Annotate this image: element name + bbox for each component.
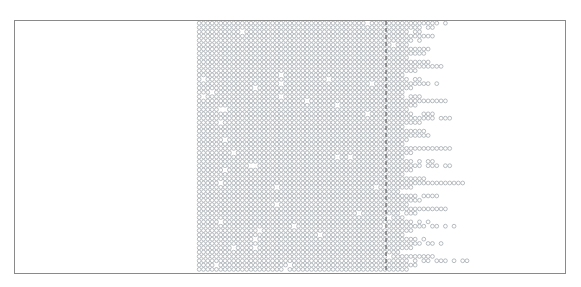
figure-root: Particle Simulation Snapshot <box>0 0 581 287</box>
particle-field-canvas <box>0 0 581 287</box>
